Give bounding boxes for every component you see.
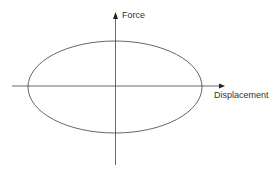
hysteresis-ellipse [28,41,202,133]
y-axis-arrow-icon [113,12,118,19]
y-axis-label: Force [122,10,145,20]
x-axis-arrow-icon [219,84,225,89]
x-axis-label: Displacement [214,90,269,100]
force-displacement-diagram: Force Displacement [0,0,277,171]
